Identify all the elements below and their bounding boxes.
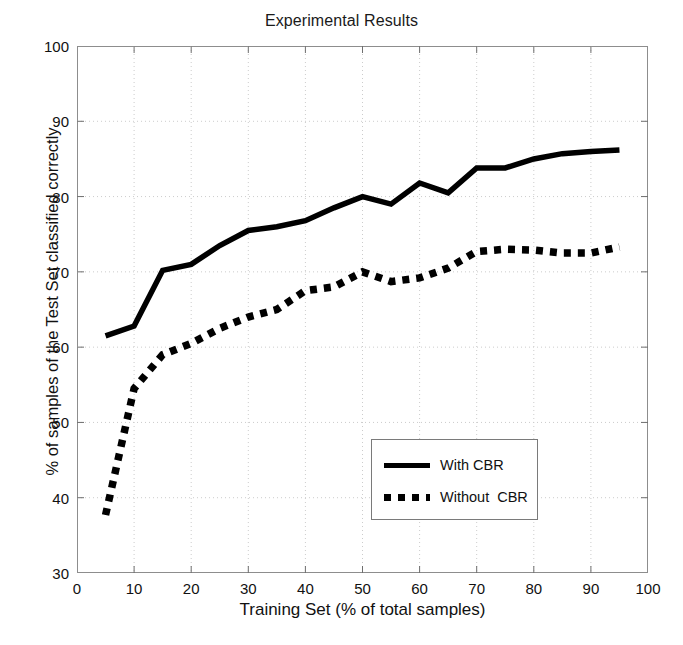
legend-item-label: With CBR <box>440 457 504 473</box>
legend-item-with-cbr: With CBR <box>372 450 539 480</box>
plot-area <box>77 46 648 573</box>
x-tick-label: 50 <box>340 581 386 596</box>
y-tick-label: 100 <box>29 39 69 54</box>
x-axis-label: Training Set (% of total samples) <box>77 600 648 620</box>
x-tick-label: 100 <box>625 581 671 596</box>
solid-line-swatch-icon <box>383 459 431 471</box>
legend: With CBR Without CBR <box>371 439 538 520</box>
x-tick-label: 70 <box>454 581 500 596</box>
dashed-line-swatch-icon <box>383 491 431 503</box>
legend-item-without-cbr: Without CBR <box>372 482 539 512</box>
y-tick-label: 30 <box>29 566 69 581</box>
page-title: Experimental Results <box>0 12 683 30</box>
x-tick-label: 90 <box>568 581 614 596</box>
chart-page: Experimental Results 10090807060504030 0… <box>0 0 683 645</box>
x-tick-label: 20 <box>168 581 214 596</box>
x-tick-label: 30 <box>225 581 271 596</box>
x-tick-label: 60 <box>397 581 443 596</box>
y-axis-label: % of samples of the Test Set classified … <box>43 92 62 512</box>
x-tick-label: 10 <box>111 581 157 596</box>
legend-item-label: Without CBR <box>440 489 528 505</box>
x-tick-label: 40 <box>282 581 328 596</box>
x-tick-label: 80 <box>511 581 557 596</box>
x-tick-label: 0 <box>54 581 100 596</box>
